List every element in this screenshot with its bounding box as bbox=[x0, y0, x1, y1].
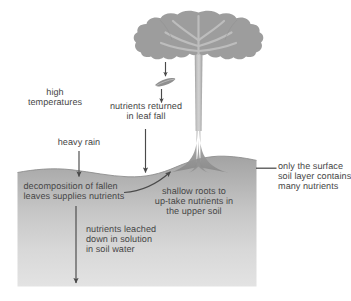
buttress-root-left bbox=[171, 128, 198, 172]
soil-fill bbox=[18, 156, 257, 286]
diagram-canvas bbox=[0, 0, 351, 301]
label-nutrients-returned-in-leaf-fall: nutrients returned in leaf fall bbox=[100, 102, 192, 122]
tree-trunk bbox=[195, 44, 203, 131]
label-decomposition-of-fallen-leaves: decomposition of fallen leaves supplies … bbox=[24, 182, 160, 202]
falling-leaf bbox=[155, 78, 175, 87]
label-only-the-surface-soil-layer: only the surface soil layer contains man… bbox=[278, 162, 351, 191]
label-shallow-roots: shallow roots to up-take nutrients in th… bbox=[144, 187, 244, 216]
nutrient-cycle-diagram: high temperatures heavy rain nutrients r… bbox=[0, 0, 351, 301]
label-high-temperatures: high temperatures bbox=[11, 88, 99, 108]
label-heavy-rain: heavy rain bbox=[45, 138, 113, 148]
soil-block bbox=[18, 156, 257, 286]
tree bbox=[134, 11, 264, 173]
label-nutrients-leached: nutrients leached down in solution in so… bbox=[86, 225, 176, 254]
